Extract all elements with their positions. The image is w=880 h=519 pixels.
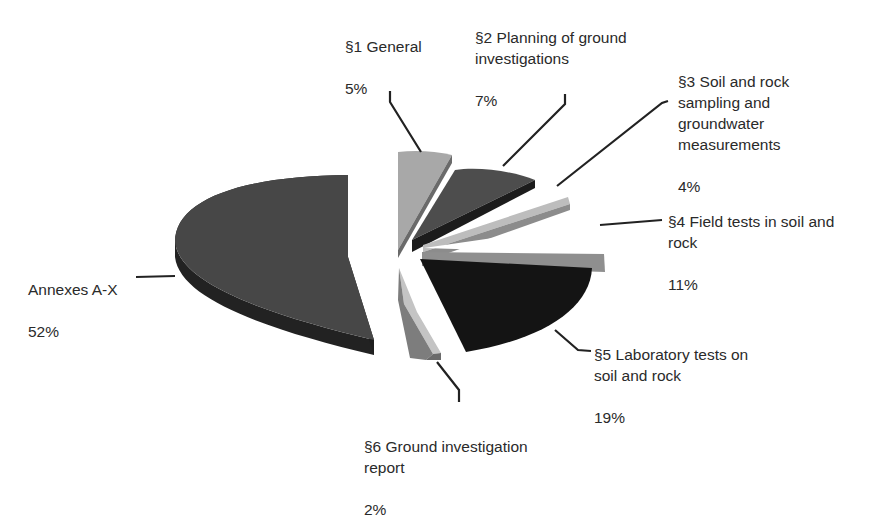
leader-s5 [555,330,591,351]
leader-s6 [437,362,459,402]
label-annex: Annexes A-X 52% [28,258,118,342]
leader-s3 [557,101,668,186]
label-s6-pct: 2% [364,501,386,518]
label-s5: §5 Laboratory tests on soil and rock 19% [594,323,748,428]
label-s4-name: §4 Field tests in soil and rock [668,213,834,251]
label-s1-name: §1 General [345,38,422,55]
label-s2: §2 Planning of ground investigations 7% [475,6,627,111]
label-s5-pct: 19% [594,409,625,426]
label-s3-name: §3 Soil and rock sampling and groundwate… [678,73,789,153]
label-s2-name: §2 Planning of ground investigations [475,29,627,67]
label-s4: §4 Field tests in soil and rock 11% [668,190,834,295]
label-s1: §1 General 5% [345,15,422,99]
label-s6: §6 Ground investigation report 2% [364,415,528,519]
label-s2-pct: 7% [475,92,497,109]
label-s5-name: §5 Laboratory tests on soil and rock [594,346,748,384]
slice-annexes [175,175,374,355]
label-s3: §3 Soil and rock sampling and groundwate… [678,50,789,197]
label-s4-pct: 11% [668,276,698,293]
slice-s5-laboratory [420,259,592,352]
label-s1-pct: 5% [345,80,367,97]
label-annex-name: Annexes A-X [28,281,118,298]
label-annex-pct: 52% [28,323,59,340]
leader-s1 [390,91,421,152]
leader-annex [136,276,175,277]
leader-s4 [600,220,662,225]
label-s6-name: §6 Ground investigation report [364,438,528,476]
